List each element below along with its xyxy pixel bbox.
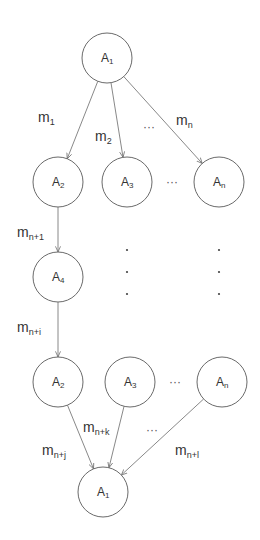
node-label-base: A bbox=[101, 51, 109, 65]
node-r2-a3: A3 bbox=[102, 157, 152, 207]
flow-diagram: A1A2A3AnA4A2A3AnA1 m1m2mnmn+1mn+imn+jmn+… bbox=[0, 0, 260, 540]
node-label-subscript: 1 bbox=[105, 491, 110, 500]
edge-label-subscript: n bbox=[188, 120, 193, 130]
edge-label-subscript: n+1 bbox=[29, 232, 44, 242]
edge-label-subscript: n+i bbox=[29, 327, 41, 337]
node-label-subscript: 2 bbox=[60, 381, 65, 390]
ellipsis: ··· bbox=[166, 175, 178, 189]
ellipsis: ··· bbox=[143, 120, 155, 134]
edge-arrow bbox=[121, 399, 203, 475]
node-label-subscript: 4 bbox=[60, 276, 65, 285]
edge-label-base: m bbox=[95, 128, 107, 144]
edge-label-base: m bbox=[175, 442, 187, 458]
edge-arrow bbox=[67, 81, 98, 158]
edge-arrow bbox=[109, 406, 124, 467]
edge-label: m1 bbox=[38, 109, 55, 127]
nodes-layer: A1A2A3AnA4A2A3AnA1 bbox=[33, 33, 247, 517]
vertical-ellipsis-dot bbox=[218, 249, 220, 251]
edge-label-base: m bbox=[83, 419, 95, 435]
edge-label: mn+j bbox=[42, 442, 66, 460]
node-label-base: A bbox=[124, 375, 132, 389]
node-label-subscript: 1 bbox=[109, 57, 114, 66]
vertical-ellipsis-dot bbox=[126, 271, 128, 273]
node-label-subscript: 2 bbox=[60, 181, 65, 190]
ellipsis: ··· bbox=[169, 375, 181, 389]
node-label-base: A bbox=[52, 375, 60, 389]
edge-label: mn+l bbox=[175, 442, 199, 460]
node-label-base: A bbox=[97, 485, 105, 499]
node-label-base: A bbox=[52, 175, 60, 189]
node-label-base: A bbox=[213, 175, 221, 189]
edge-label-base: m bbox=[17, 224, 29, 240]
node-label-subscript: n bbox=[224, 381, 228, 390]
edge-label: mn+1 bbox=[17, 224, 44, 242]
edge-label: mn+i bbox=[17, 319, 41, 337]
edge-arrow bbox=[111, 83, 123, 158]
edge-label-subscript: n+k bbox=[95, 427, 110, 437]
vertical-ellipsis-dot bbox=[126, 293, 128, 295]
node-top-a1: A1 bbox=[82, 33, 132, 83]
ellipsis: ··· bbox=[146, 423, 158, 437]
node-r3-a4: A4 bbox=[33, 252, 83, 302]
vertical-ellipsis-dot bbox=[218, 293, 220, 295]
edge-label-subscript: n+l bbox=[187, 450, 199, 460]
edge-label: mn bbox=[176, 112, 193, 130]
edge-label-base: m bbox=[17, 319, 29, 335]
node-label-subscript: 3 bbox=[129, 181, 134, 190]
node-bot-a1: A1 bbox=[78, 467, 128, 517]
node-label-subscript: 3 bbox=[132, 381, 137, 390]
edge-label-subscript: 1 bbox=[50, 117, 55, 127]
node-r2-an: An bbox=[194, 157, 244, 207]
node-r4-a2: A2 bbox=[33, 357, 83, 407]
node-r4-an: An bbox=[197, 357, 247, 407]
edge-label-base: m bbox=[42, 442, 54, 458]
node-label-base: A bbox=[216, 375, 224, 389]
edge-label: m2 bbox=[95, 128, 112, 146]
edge-label-subscript: n+j bbox=[54, 450, 66, 460]
edge-label-base: m bbox=[38, 109, 50, 125]
vertical-ellipsis-dot bbox=[218, 271, 220, 273]
vertical-ellipsis-dot bbox=[126, 249, 128, 251]
node-label-subscript: n bbox=[221, 181, 225, 190]
node-r2-a2: A2 bbox=[33, 157, 83, 207]
edge-label-base: m bbox=[176, 112, 188, 128]
node-label-base: A bbox=[52, 270, 60, 284]
edge-label: mn+k bbox=[83, 419, 110, 437]
edge-label-subscript: 2 bbox=[107, 136, 112, 146]
node-label-base: A bbox=[121, 175, 129, 189]
diagram-canvas: A1A2A3AnA4A2A3AnA1 m1m2mnmn+1mn+imn+jmn+… bbox=[0, 0, 260, 540]
node-r4-a3: A3 bbox=[105, 357, 155, 407]
edge-arrow bbox=[67, 405, 93, 469]
